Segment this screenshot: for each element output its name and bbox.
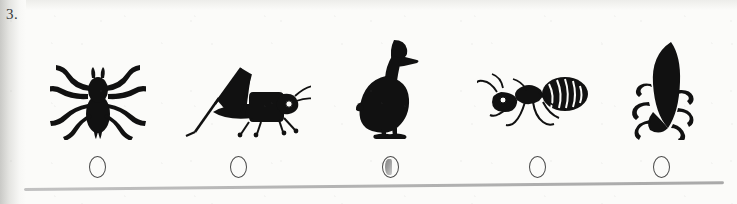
option-figure-spider[interactable]: [46, 30, 150, 140]
ant-illustration-icon: [477, 56, 597, 140]
option-figure-duck[interactable]: [348, 30, 432, 140]
duck-silhouette-icon: [354, 36, 426, 140]
answer-bubble-5[interactable]: [653, 156, 670, 178]
answer-bubble-1[interactable]: [89, 156, 106, 178]
answer-bubble-row: [0, 152, 737, 184]
answer-figure-row: [0, 30, 737, 140]
option-figure-beetle[interactable]: [618, 30, 708, 140]
answer-bubble-2[interactable]: [230, 156, 247, 178]
answer-bubble-3[interactable]: [382, 156, 399, 178]
grasshopper-silhouette-icon: [183, 52, 311, 140]
spider-silhouette-icon: [50, 52, 146, 140]
answer-bubble-4[interactable]: [529, 156, 546, 178]
option-figure-ant[interactable]: [475, 30, 599, 140]
question-number: 3.: [6, 6, 18, 23]
worksheet-question-row: 3.: [0, 0, 737, 204]
scan-top-shadow: [0, 0, 737, 10]
beetle-silhouette-icon: [621, 40, 705, 140]
option-figure-grasshopper[interactable]: [182, 30, 312, 140]
